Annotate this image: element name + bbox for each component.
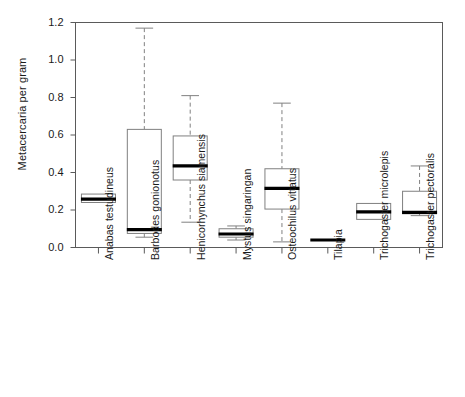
y-tick-label: 1.0 (30, 54, 64, 65)
x-tick-label: Tilapia (332, 229, 344, 260)
x-tick-label: Trichogaster pectoralis (424, 153, 436, 260)
y-tick-label: 0.8 (30, 92, 64, 103)
x-tick-label: Mystus singaringan (241, 168, 253, 259)
x-tick-label: Barbodes gonionotus (149, 159, 161, 259)
y-tick-label: 0.0 (30, 242, 64, 253)
x-tick-label: Henicorhynchus siamensis (195, 133, 207, 259)
y-tick-label: 0.6 (30, 129, 64, 140)
x-tick-label: Trichogaster microlepis (378, 150, 390, 259)
plot-canvas (0, 0, 465, 397)
boxplot-figure: Metacercaria per gram 0.00.20.40.60.81.0… (0, 0, 465, 397)
y-tick-label: 1.2 (30, 17, 64, 28)
y-tick-label: 0.4 (30, 167, 64, 178)
x-tick-label: Anabas testudineus (103, 166, 115, 259)
y-axis-label: Metacercaria per gram (16, 24, 28, 204)
y-tick-label: 0.2 (30, 204, 64, 215)
x-tick-label: Osteochilus vittatus (286, 167, 298, 259)
